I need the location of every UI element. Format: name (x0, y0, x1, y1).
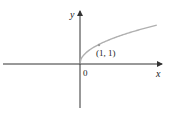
point-label: (1, 1) (96, 48, 116, 58)
sqrt-curve (80, 25, 157, 63)
origin-label: 0 (83, 68, 88, 78)
x-axis-label: x (155, 68, 161, 79)
point-1-1 (98, 44, 100, 46)
sqrt-graph: y x 0 (1, 1) (0, 0, 172, 119)
y-axis-label: y (69, 9, 75, 20)
